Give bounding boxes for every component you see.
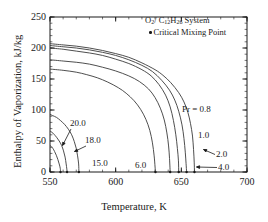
leader-arrowhead <box>75 149 78 152</box>
curve-pr-0-8 <box>50 44 194 172</box>
critical-mixing-point-dot <box>59 171 61 173</box>
curve-pr-18-0 <box>50 131 67 172</box>
critical-mixing-point-dot <box>185 171 187 173</box>
leader-arrowhead <box>197 166 200 169</box>
chart-figure: 0 50 100 150 200 250 550 600 650 700 Tem… <box>0 0 268 222</box>
leader-arrowhead <box>204 150 207 153</box>
critical-mixing-point-dot <box>78 171 80 173</box>
xtick-label-550: 550 <box>30 176 70 187</box>
curve-label-pr-15-0: 15.0 <box>92 158 108 168</box>
xtick-label-600: 600 <box>96 176 136 187</box>
y-axis-title: Enthalpy of Vaporization, kJ/kg <box>12 35 23 168</box>
data-curves <box>50 44 194 172</box>
critical-point-annotation: Critical Mixing Point <box>149 27 226 37</box>
critical-point-marker-icon <box>149 31 152 34</box>
critical-point-text: Critical Mixing Point <box>154 27 227 37</box>
system-slash-c: / C <box>154 15 164 25</box>
leader-arrowhead <box>63 142 66 145</box>
curve-label-pr-0-8: Pr = 0.8 <box>182 104 211 114</box>
xtick-label-650: 650 <box>161 176 201 187</box>
system-annotation: O2/ C12H26 System <box>145 15 210 25</box>
curve-label-pr-20-0: 20.0 <box>70 118 86 128</box>
curve-label-pr-2-0: 2.0 <box>216 149 227 159</box>
critical-mixing-point-dot <box>66 171 68 173</box>
curve-label-pr-6-0: 6.0 <box>135 160 146 170</box>
curve-pr-1-0 <box>50 46 187 172</box>
curve-pr-20-0 <box>50 145 61 172</box>
curve-pr-2-0 <box>50 48 179 172</box>
system-tail: System <box>182 15 209 25</box>
critical-mixing-point-dot <box>193 171 195 173</box>
curve-label-pr-4-0: 4.0 <box>218 162 229 172</box>
curve-label-pr-18-0: 18.0 <box>85 135 101 145</box>
x-axis-title: Temperature, K <box>0 201 268 212</box>
curve-label-pr-1-0: 1.0 <box>198 130 209 140</box>
curve-pr-6-0 <box>50 69 155 172</box>
ytick-label-250: 250 <box>16 11 46 22</box>
xtick-label-700: 700 <box>227 176 267 187</box>
critical-mixing-point-dot <box>169 171 171 173</box>
critical-mixing-point-dot <box>154 171 156 173</box>
critical-mixing-point-dot <box>178 171 180 173</box>
